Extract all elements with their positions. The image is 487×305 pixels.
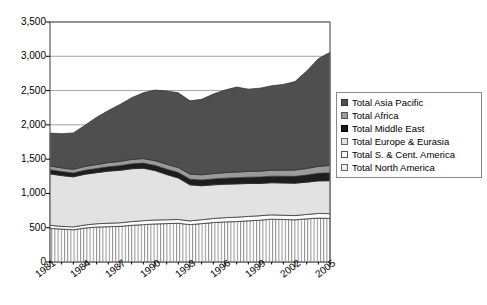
legend-item-label: Total Middle East [352,123,424,134]
legend-item[interactable]: Total Asia Pacific [341,96,478,109]
legend-swatch-icon [341,99,348,106]
legend-swatch-icon [341,151,348,158]
x-axis-tick-label: 1993 [173,257,197,279]
legend-swatch-icon [341,112,348,119]
x-axis-tick-label: 1987 [103,257,127,279]
legend-item[interactable]: Total Middle East [341,122,478,135]
legend-item-label: Total Europe & Eurasia [352,136,449,147]
legend-swatch-icon [341,138,348,145]
stacked-area-chart: 05001,0001,5002,0002,5003,0003,500 19811… [0,0,487,305]
legend-item-label: Total North America [352,162,435,173]
x-axis-tick-label: 1996 [208,257,232,279]
x-axis-tick-label: 2002 [278,257,302,279]
legend-item[interactable]: Total North America [341,161,478,174]
legend-swatch-icon [341,125,348,132]
legend-item-label: Total Africa [352,110,398,121]
x-axis-tick-label: 1981 [33,257,57,279]
legend-item-label: Total S. & Cent. America [352,149,455,160]
chart-legend: Total Asia PacificTotal AfricaTotal Midd… [336,92,482,178]
x-axis-tick-label: 2005 [313,257,337,279]
legend-item-label: Total Asia Pacific [352,97,423,108]
legend-item[interactable]: Total S. & Cent. America [341,148,478,161]
x-axis-tick-label: 1984 [68,257,92,279]
x-axis-tick-label: 1990 [138,257,162,279]
legend-item[interactable]: Total Europe & Eurasia [341,135,478,148]
legend-item[interactable]: Total Africa [341,109,478,122]
legend-swatch-icon [341,164,348,171]
x-axis-tick-label: 1999 [243,257,267,279]
